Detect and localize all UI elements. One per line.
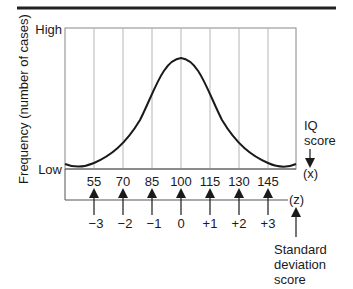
y-axis-label: Frequency (number of cases) [16, 14, 31, 184]
y-tick-high: High [35, 22, 62, 37]
arrow-up-icon [147, 188, 157, 215]
arrow-up-icon [205, 188, 215, 215]
z-tick: −1 [147, 216, 162, 231]
z-tick: −3 [89, 216, 104, 231]
z-tick: +2 [232, 216, 247, 231]
arrow-up-icon [234, 188, 244, 215]
arrow-up-icon [291, 207, 301, 237]
up-arrows [89, 188, 273, 215]
iq-tick: 100 [170, 174, 192, 189]
arrow-up-icon [176, 188, 186, 215]
z-tick: +1 [203, 216, 218, 231]
iq-tick-labels: 55 70 85 100 115 130 145 [87, 174, 279, 189]
arrow-up-icon [89, 188, 99, 215]
iq-tick: 145 [257, 174, 279, 189]
arrow-up-icon [118, 188, 128, 215]
z-tick: 0 [177, 216, 184, 231]
iq-tick: 55 [87, 174, 101, 189]
z-symbol: (z) [289, 192, 304, 207]
sd-score-label-line1: Standard [274, 242, 327, 257]
z-tick-labels: −3 −2 −1 0 +1 +2 +3 [89, 216, 276, 231]
iq-tick: 70 [116, 174, 130, 189]
z-tick: −2 [118, 216, 133, 231]
x-symbol: (x) [303, 166, 318, 181]
sd-score-label-line3: score [274, 272, 306, 287]
iq-tick: 115 [200, 174, 221, 189]
arrow-up-icon [263, 188, 273, 215]
normal-distribution-diagram: High Low Frequency (number of cases) 55 … [0, 0, 353, 289]
grid-lines [94, 28, 268, 169]
z-tick: +3 [261, 216, 276, 231]
iq-score-label-line1: IQ [304, 118, 318, 133]
iq-tick: 130 [228, 174, 250, 189]
iq-tick: 85 [145, 174, 159, 189]
sd-score-label-line2: deviation [274, 257, 326, 272]
y-tick-low: Low [38, 162, 62, 177]
iq-score-label-line2: score [304, 133, 336, 148]
